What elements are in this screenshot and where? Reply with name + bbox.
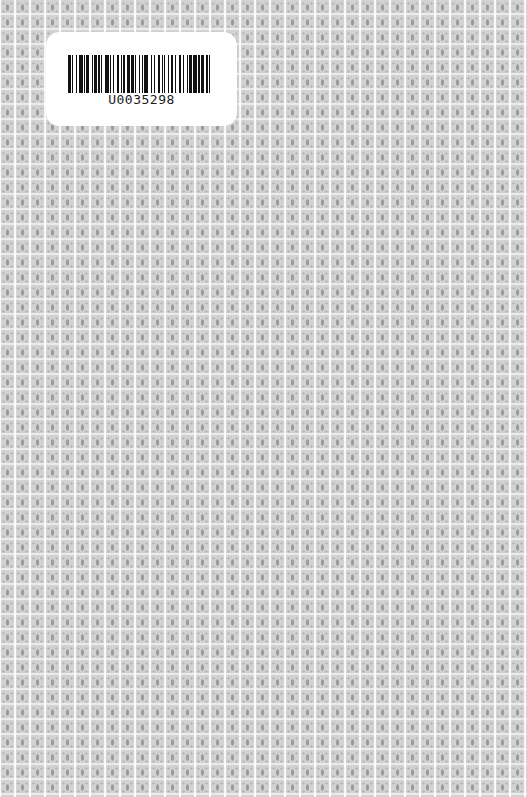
- barcode-label: U0035298: [46, 32, 237, 126]
- barcode-number: U0035298: [46, 92, 237, 107]
- barcode-bars: [68, 55, 214, 93]
- barcode-space: [210, 55, 213, 93]
